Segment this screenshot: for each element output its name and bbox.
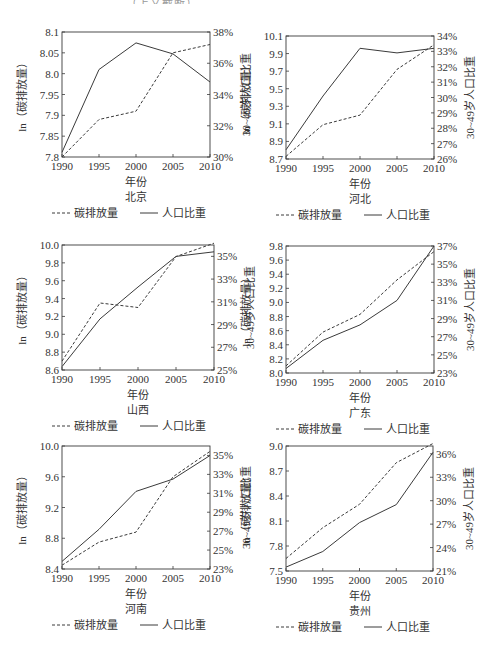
right-tick-label: 27% bbox=[217, 341, 237, 353]
x-tick-label: 2010 bbox=[422, 574, 445, 586]
series-population-share bbox=[286, 452, 433, 567]
right-axis-label: 30~49岁人口比重 bbox=[462, 467, 475, 550]
legend-carbon-label: 碳排放量 bbox=[298, 208, 342, 221]
x-tick-label: 2000 bbox=[349, 162, 372, 174]
x-tick-label: 1990 bbox=[51, 160, 74, 172]
legend-carbon-label: 碳排放量 bbox=[74, 206, 118, 219]
left-tick-label: 8.9 bbox=[269, 135, 283, 147]
chart-title: 河南 bbox=[125, 603, 147, 615]
chart-panel-0: 8.18.058.07.957.97.857.838%36%34%32%30%1… bbox=[15, 26, 252, 219]
right-tick-label: 28% bbox=[437, 122, 457, 134]
series-population-share bbox=[286, 48, 434, 150]
right-tick-label: 33% bbox=[436, 471, 456, 483]
x-tick-label: 2005 bbox=[162, 160, 185, 172]
right-axis-label: 30~49岁人口比重 bbox=[463, 56, 476, 139]
left-tick-label: 9.5 bbox=[269, 83, 283, 95]
x-tick-label: 1990 bbox=[51, 572, 74, 584]
right-tick-label: 36% bbox=[436, 448, 456, 460]
x-axis-label: 年份 bbox=[125, 175, 147, 188]
chart-title: 河北 bbox=[349, 193, 371, 205]
left-axis-label: ln（碳排放量） bbox=[239, 60, 252, 135]
left-tick-label: 9.2 bbox=[45, 502, 59, 514]
chart-panel-2: 10.09.89.69.49.29.08.88.635%33%31%29%27%… bbox=[15, 239, 256, 432]
left-tick-label: 9.1 bbox=[269, 118, 283, 130]
x-tick-label: 2010 bbox=[199, 572, 222, 584]
chart-panel-5: 9.08.78.48.17.87.536%33%30%27%24%21%1990… bbox=[239, 440, 475, 633]
left-tick-label: 7.85 bbox=[40, 130, 60, 142]
x-tick-label: 2000 bbox=[125, 160, 148, 172]
right-tick-label: 29% bbox=[217, 319, 237, 331]
x-tick-label: 2010 bbox=[423, 162, 446, 174]
x-tick-label: 2005 bbox=[162, 572, 185, 584]
x-tick-label: 2000 bbox=[127, 373, 150, 385]
series-population-share bbox=[286, 246, 434, 369]
left-tick-label: 9.0 bbox=[269, 296, 283, 308]
chart-title: 山西 bbox=[127, 404, 149, 416]
left-tick-label: 8.8 bbox=[45, 346, 59, 358]
right-tick-label: 31% bbox=[437, 294, 457, 306]
left-tick-label: 7.95 bbox=[40, 89, 60, 101]
left-tick-label: 8.8 bbox=[45, 532, 59, 544]
legend-carbon-label: 碳排放量 bbox=[298, 620, 342, 633]
left-tick-label: 9.2 bbox=[45, 310, 59, 322]
x-tick-label: 2005 bbox=[386, 376, 409, 388]
x-tick-label: 1995 bbox=[312, 376, 335, 388]
x-tick-label: 1990 bbox=[275, 574, 298, 586]
x-axis-label: 年份 bbox=[349, 391, 371, 404]
left-tick-label: 9.6 bbox=[269, 254, 283, 266]
x-tick-label: 2010 bbox=[199, 160, 222, 172]
x-tick-label: 2000 bbox=[349, 574, 372, 586]
left-tick-label: 9.4 bbox=[269, 268, 283, 280]
left-tick-label: 8.4 bbox=[269, 339, 283, 351]
chart-panel-3: 9.89.69.49.29.08.88.68.48.28.037%35%33%3… bbox=[239, 240, 476, 435]
right-tick-label: 27% bbox=[436, 518, 456, 530]
left-tick-label: 8.8 bbox=[269, 311, 283, 323]
left-tick-label: 9.6 bbox=[45, 275, 59, 287]
right-tick-label: 27% bbox=[213, 525, 233, 537]
right-tick-label: 30% bbox=[436, 495, 456, 507]
left-tick-label: 7.9 bbox=[45, 109, 59, 121]
right-tick-label: 25% bbox=[213, 544, 233, 556]
series-carbon-emission bbox=[62, 45, 210, 158]
right-tick-label: 31% bbox=[437, 76, 457, 88]
right-tick-label: 38% bbox=[213, 26, 233, 38]
right-axis-label: 30~49岁人口比重 bbox=[463, 268, 476, 351]
right-tick-label: 31% bbox=[217, 296, 237, 308]
x-tick-label: 1995 bbox=[312, 162, 335, 174]
x-tick-label: 2005 bbox=[386, 162, 409, 174]
x-tick-label: 2000 bbox=[125, 572, 148, 584]
series-carbon-emission bbox=[62, 451, 210, 565]
x-tick-label: 1990 bbox=[51, 373, 74, 385]
left-tick-label: 9.7 bbox=[269, 65, 283, 77]
left-axis-label: ln（碳排放量） bbox=[15, 470, 28, 545]
x-tick-label: 1995 bbox=[88, 160, 111, 172]
series-population-share bbox=[62, 43, 210, 152]
chart-title: 北京 bbox=[125, 190, 147, 203]
chart-title: 广东 bbox=[349, 407, 371, 419]
x-tick-label: 2005 bbox=[385, 574, 408, 586]
chart-panel-4: 10.09.69.28.88.435%33%31%29%27%25%23%199… bbox=[15, 440, 252, 631]
left-tick-label: 9.0 bbox=[269, 440, 283, 452]
left-tick-label: 9.2 bbox=[269, 282, 283, 294]
left-tick-label: 9.3 bbox=[269, 100, 283, 112]
legend-population-label: 人口比重 bbox=[386, 208, 430, 221]
legend-population-label: 人口比重 bbox=[162, 419, 206, 432]
right-tick-label: 32% bbox=[437, 61, 457, 73]
left-tick-label: 9.8 bbox=[269, 240, 283, 252]
left-tick-label: 7.8 bbox=[269, 540, 283, 552]
right-tick-label: 25% bbox=[437, 349, 457, 361]
chart-figure: 8.18.058.07.957.97.857.838%36%34%32%30%1… bbox=[0, 0, 496, 651]
left-tick-label: 8.1 bbox=[269, 515, 283, 527]
left-tick-label: 8.2 bbox=[269, 353, 283, 365]
x-tick-label: 1995 bbox=[88, 572, 111, 584]
right-tick-label: 33% bbox=[217, 273, 237, 285]
right-tick-label: 29% bbox=[437, 107, 457, 119]
series-carbon-emission bbox=[62, 243, 214, 361]
right-tick-label: 30% bbox=[437, 92, 457, 104]
plot-frame bbox=[62, 32, 210, 157]
x-axis-label: 年份 bbox=[349, 589, 371, 602]
x-tick-label: 1990 bbox=[275, 162, 298, 174]
right-tick-label: 31% bbox=[213, 487, 233, 499]
left-axis-label: ln（碳排放量） bbox=[15, 57, 28, 132]
left-tick-label: 8.05 bbox=[40, 47, 60, 59]
